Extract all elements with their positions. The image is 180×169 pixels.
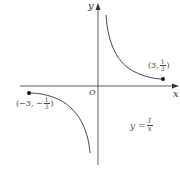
x-axis-label: x xyxy=(173,88,179,99)
y-axis-arrow-icon xyxy=(96,3,101,10)
point-positive xyxy=(161,77,165,81)
point-negative-label: (−3, − 13 ) xyxy=(16,97,54,110)
y-axis-label: y xyxy=(88,0,94,11)
point-negative xyxy=(27,91,31,95)
hyperbola-graph xyxy=(0,0,180,169)
fraction: 1x xyxy=(147,118,153,133)
fraction: 13 xyxy=(44,97,50,110)
point-positive-label: (3, 13 ) xyxy=(148,59,170,72)
fraction: 13 xyxy=(160,59,166,72)
origin-label: O xyxy=(89,88,96,97)
equation-label: y = 1x xyxy=(130,118,154,133)
